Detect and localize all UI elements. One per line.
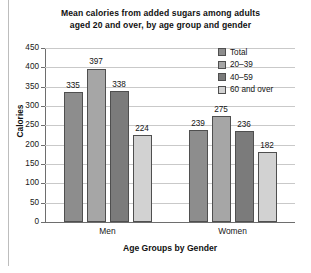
legend-item[interactable]: 40–59 xyxy=(218,71,273,83)
legend-item[interactable]: 60 and over xyxy=(218,84,273,96)
bar-women-60-and-over[interactable] xyxy=(258,152,277,222)
bar-women-40–59[interactable] xyxy=(235,131,254,222)
chart-title-line-1: Mean calories from added sugars among ad… xyxy=(28,8,293,20)
y-tick-label-450: 450 xyxy=(9,44,39,52)
gridline-250 xyxy=(45,125,295,126)
legend-label: 40–59 xyxy=(230,73,253,82)
bar-value-label: 236 xyxy=(231,120,258,129)
legend-item[interactable]: 20–39 xyxy=(218,59,273,71)
bar-value-label: 338 xyxy=(106,80,133,89)
bar-value-label: 182 xyxy=(254,141,281,150)
legend-swatch-icon xyxy=(218,86,226,94)
chart-legend: Total20–3940–5960 and over xyxy=(218,46,273,96)
gridline-0 xyxy=(45,222,295,223)
legend-swatch-icon xyxy=(218,48,226,56)
legend-label: Total xyxy=(230,48,247,57)
bar-women-20–39[interactable] xyxy=(212,116,231,222)
bar-men-40–59[interactable] xyxy=(110,91,129,222)
y-tick-label-300: 300 xyxy=(9,102,39,110)
legend-label: 60 and over xyxy=(230,85,273,94)
y-tick-label-400: 400 xyxy=(9,63,39,71)
bar-men-60-and-over[interactable] xyxy=(133,135,152,222)
legend-swatch-icon xyxy=(218,73,226,81)
legend-label: 20–39 xyxy=(230,60,253,69)
legend-item[interactable]: Total xyxy=(218,46,273,58)
y-tick-label-100: 100 xyxy=(9,179,39,187)
bar-value-label: 224 xyxy=(129,124,156,133)
y-tick-label-150: 150 xyxy=(9,160,39,168)
bar-men-total[interactable] xyxy=(64,92,83,222)
y-tick-label-350: 350 xyxy=(9,83,39,91)
y-tick-label-0: 0 xyxy=(9,218,39,226)
bar-value-label: 397 xyxy=(83,57,110,66)
bar-chart: Mean calories from added sugars among ad… xyxy=(0,0,311,273)
bar-women-total[interactable] xyxy=(189,130,208,222)
x-axis-label-women: Women xyxy=(170,226,295,236)
bar-value-label: 239 xyxy=(185,119,212,128)
chart-title-line-2: aged 20 and over, by age group and gende… xyxy=(28,20,293,32)
x-axis-title: Age Groups by Gender xyxy=(45,243,295,253)
bar-value-label: 335 xyxy=(60,81,87,90)
bar-men-20–39[interactable] xyxy=(87,69,106,223)
y-tick-label-50: 50 xyxy=(9,199,39,207)
bar-value-label: 275 xyxy=(208,105,235,114)
y-tick-label-250: 250 xyxy=(9,121,39,129)
y-tick-label-200: 200 xyxy=(9,141,39,149)
x-axis-label-men: Men xyxy=(45,226,170,236)
chart-title: Mean calories from added sugars among ad… xyxy=(28,8,293,31)
legend-swatch-icon xyxy=(218,61,226,69)
gridline-300 xyxy=(45,106,295,107)
